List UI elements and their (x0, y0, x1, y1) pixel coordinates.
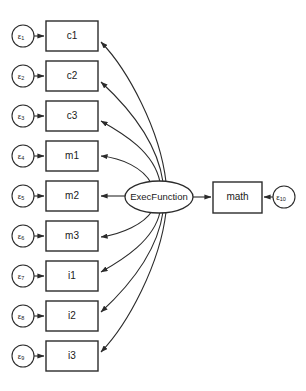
latent-label: ExecFunction (130, 191, 188, 202)
sem-path-diagram: c1 c2 c3 m1 m2 m3 (0, 0, 306, 391)
indicator-node-m2[interactable]: m2 (46, 181, 98, 211)
error-subscript: 6 (21, 236, 24, 242)
error-node-e2[interactable]: ε2 (12, 65, 34, 87)
error-subscript: 2 (21, 76, 24, 82)
error-node-e3[interactable]: ε3 (12, 105, 34, 127)
error-subscript: 10 (280, 197, 286, 203)
error-node-e1[interactable]: ε1 (12, 25, 34, 47)
loading-edge-m1 (101, 156, 151, 183)
loading-edge-i3 (101, 212, 166, 352)
indicator-label: m2 (65, 190, 79, 201)
indicator-node-m3[interactable]: m3 (46, 221, 98, 251)
indicator-label: m3 (65, 230, 79, 241)
error-subscript: 5 (21, 196, 24, 202)
indicator-label: c2 (67, 70, 78, 81)
error-subscript: 4 (21, 156, 24, 162)
error-subscript: 8 (21, 316, 24, 322)
error-node-e8[interactable]: ε8 (12, 305, 34, 327)
error-node-e6[interactable]: ε6 (12, 225, 34, 247)
loading-edge-c3 (101, 121, 160, 182)
indicator-node-c3[interactable]: c3 (46, 101, 98, 131)
outcome-label: math (226, 191, 248, 202)
error-subscript: 1 (21, 36, 24, 42)
indicator-node-c2[interactable]: c2 (46, 61, 98, 91)
indicator-label: c3 (67, 110, 78, 121)
indicator-node-i2[interactable]: i2 (46, 301, 98, 331)
indicator-node-i3[interactable]: i3 (46, 341, 98, 371)
loading-edge-c1 (101, 42, 166, 182)
indicator-label: i1 (68, 270, 76, 281)
error-node-e9[interactable]: ε9 (12, 345, 34, 367)
indicator-nodes: c1 c2 c3 m1 m2 m3 (46, 21, 98, 371)
indicator-node-m1[interactable]: m1 (46, 141, 98, 171)
error-subscript: 7 (21, 276, 24, 282)
indicator-node-i1[interactable]: i1 (46, 261, 98, 291)
indicator-label: c1 (67, 30, 78, 41)
latent-node-execfunction[interactable]: ExecFunction (125, 181, 193, 213)
diagram-canvas: c1 c2 c3 m1 m2 m3 (0, 0, 306, 391)
error-subscript: 9 (21, 356, 24, 362)
indicator-node-c1[interactable]: c1 (46, 21, 98, 51)
indicator-label: i3 (68, 350, 76, 361)
indicator-label: m1 (65, 150, 79, 161)
error-node-e10[interactable]: ε10 (273, 186, 295, 208)
error-subscript: 3 (21, 116, 24, 122)
loading-edge-m3 (101, 211, 152, 237)
indicator-label: i2 (68, 310, 76, 321)
loading-edge-i1 (101, 212, 160, 272)
error-node-e4[interactable]: ε4 (12, 145, 34, 167)
outcome-node-math[interactable]: math (213, 182, 262, 213)
error-node-e7[interactable]: ε7 (12, 265, 34, 287)
error-node-e5[interactable]: ε5 (12, 185, 34, 207)
